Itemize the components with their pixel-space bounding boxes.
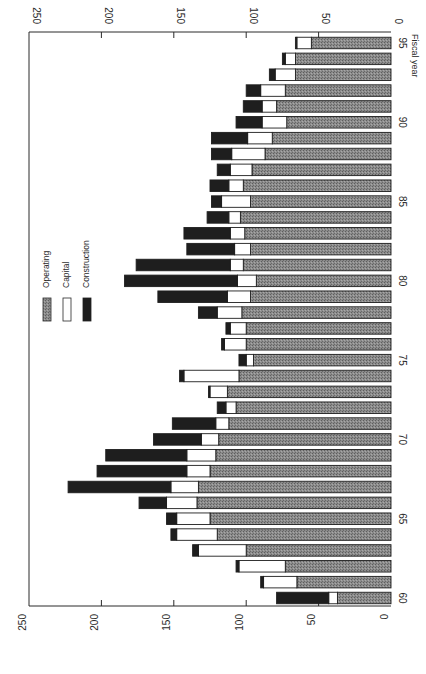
bar-segment-capital (261, 85, 286, 97)
bar-segment-operating (251, 291, 391, 303)
bar-fy68 (97, 465, 391, 477)
bar-fy74 (180, 370, 391, 382)
bar-segment-construction (295, 37, 296, 49)
bar-fy83 (184, 228, 391, 240)
bar-segment-construction (246, 85, 260, 97)
bar-fy71 (172, 418, 391, 430)
bar-fy79 (158, 291, 391, 303)
bar-segment-operating (198, 481, 391, 493)
bar-segment-capital (235, 243, 251, 255)
bar-segment-capital (246, 354, 253, 366)
bar-segment-operating (287, 117, 391, 129)
value-tick-label-top: 50 (320, 13, 331, 25)
bar-fy86 (210, 180, 391, 192)
bar-segment-operating (210, 513, 391, 525)
bar-segment-operating (337, 592, 391, 604)
bar-segment-capital (226, 402, 236, 414)
bar-segment-construction (97, 465, 187, 477)
bar-segment-construction (198, 307, 217, 319)
bar-segment-capital (285, 53, 295, 65)
bar-segment-capital (229, 180, 243, 192)
bar-segment-capital (201, 434, 218, 446)
category-tick-label: 90 (397, 117, 408, 129)
bar-series-group (68, 37, 391, 604)
bar-segment-capital (177, 513, 210, 525)
bar-segment-construction (172, 418, 215, 430)
bar-fy85 (211, 196, 391, 208)
bar-segment-operating (229, 418, 391, 430)
category-axis-title: Fiscal year (410, 34, 420, 78)
value-tick-label-bottom: 100 (234, 614, 245, 631)
bar-fy87 (217, 164, 391, 176)
bar-segment-operating (295, 69, 391, 81)
bar-fy82 (187, 243, 391, 255)
bar-segment-operating (252, 164, 391, 176)
bar-segment-capital (217, 307, 242, 319)
bar-segment-construction (158, 291, 228, 303)
bar-fy61 (261, 576, 391, 588)
bar-segment-operating (285, 85, 391, 97)
value-tick-label-bottom: 0 (379, 614, 390, 620)
bar-segment-operating (246, 545, 391, 557)
bar-segment-operating (245, 228, 391, 240)
bar-segment-construction (125, 275, 238, 287)
bar-fy66 (139, 497, 391, 509)
bar-fy93 (269, 69, 391, 81)
bar-segment-construction (207, 212, 229, 224)
bar-fy70 (154, 434, 391, 446)
bar-segment-capital (171, 481, 199, 493)
bar-segment-construction (106, 450, 187, 462)
bar-segment-capital (262, 101, 276, 113)
legend-item-capital: Capital (61, 261, 71, 321)
category-tick-label: 80 (397, 275, 408, 287)
legend-label-operating: Operating (41, 250, 51, 288)
bar-segment-construction (167, 513, 177, 525)
bar-fy65 (167, 513, 391, 525)
bar-segment-construction (236, 117, 262, 129)
bar-fy72 (217, 402, 391, 414)
bar-segment-operating (295, 53, 391, 65)
bar-fy67 (68, 481, 391, 493)
bar-segment-operating (216, 450, 391, 462)
bar-segment-capital (264, 576, 297, 588)
bar-segment-operating (265, 148, 391, 160)
capital-swatch-icon (63, 298, 71, 321)
bar-segment-construction (243, 101, 262, 113)
bar-segment-operating (210, 465, 391, 477)
category-tick-label: 70 (397, 434, 408, 446)
bar-fy80 (125, 275, 391, 287)
category-axis-labels: 6065707580859095 (397, 37, 408, 604)
bar-segment-construction (217, 402, 226, 414)
bar-segment-capital (184, 370, 239, 382)
bar-fy90 (236, 117, 391, 129)
bar-segment-construction (154, 434, 202, 446)
bar-segment-construction (211, 132, 247, 144)
bar-fy89 (211, 132, 391, 144)
bar-segment-construction (193, 545, 199, 557)
bar-segment-capital (216, 418, 229, 430)
bar-segment-construction (226, 323, 230, 335)
bar-segment-capital (224, 339, 246, 351)
operating-swatch-icon (43, 298, 51, 321)
bar-segment-operating (242, 307, 391, 319)
legend-label-capital: Capital (61, 261, 71, 288)
bar-fy92 (246, 85, 391, 97)
bar-segment-operating (219, 434, 391, 446)
legend: Operating Capital Construction (41, 240, 91, 321)
bar-fy62 (236, 561, 391, 573)
bar-segment-capital (222, 196, 251, 208)
bar-fy94 (282, 53, 391, 65)
bar-segment-capital (230, 323, 246, 335)
legend-item-construction: Construction (81, 240, 91, 321)
value-tick-label-top: 250 (31, 7, 42, 24)
bar-fy84 (207, 212, 391, 224)
bar-segment-construction (277, 592, 329, 604)
bar-segment-construction (68, 481, 171, 493)
bar-segment-operating (311, 37, 391, 49)
bar-fy60 (277, 592, 391, 604)
bar-segment-operating (217, 529, 391, 541)
stacked-bar-chart: 005050100100150150200200250250 606570758… (0, 0, 426, 674)
bar-segment-operating (236, 402, 391, 414)
value-tick-label-top: 200 (103, 7, 114, 24)
bar-fy76 (222, 339, 391, 351)
